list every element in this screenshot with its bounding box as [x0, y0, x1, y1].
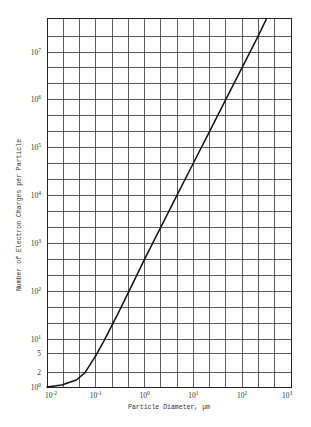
y-tick-label: 104: [31, 190, 42, 200]
y-tick-label: 102: [31, 286, 42, 296]
x-tick-label: 100: [139, 390, 150, 400]
y-tick-label: 107: [31, 47, 42, 57]
x-axis-tick-labels: 10-210-1100101102103: [45, 390, 292, 400]
x-tick-label: 10-2: [45, 390, 57, 400]
y-tick-label: 103: [31, 238, 42, 248]
chart: 10-210-1100101102103 1002510110210310410…: [0, 0, 311, 427]
y-tick-label: 106: [31, 94, 42, 104]
gridlines: [47, 18, 291, 387]
plot-frame: [47, 18, 291, 387]
x-tick-label: 102: [237, 390, 248, 400]
x-tick-label: 103: [282, 390, 293, 400]
y-tick-label: 101: [31, 334, 42, 344]
y-axis-label: Number of Electron Charges per Particle: [16, 139, 23, 291]
y-tick-label: 5: [37, 349, 41, 358]
y-axis-tick-labels: 10025101102103104105106107: [31, 47, 42, 392]
x-tick-label: 10-1: [90, 390, 102, 400]
x-tick-label: 101: [188, 390, 199, 400]
x-axis-label: Particle Diameter, μm: [128, 404, 210, 411]
y-tick-label: 105: [31, 142, 42, 152]
y-tick-label: 100: [31, 382, 42, 392]
y-tick-label: 2: [37, 368, 41, 377]
